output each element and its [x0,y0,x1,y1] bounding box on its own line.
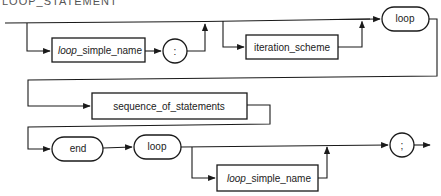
row-3: end loop loop_simple_name ; [52,133,430,191]
loop-statement-diagram: LOOP_STATEMENT loop_simple_name : iterat… [0,0,441,196]
loop-simple-name-label: loop_simple_name [58,45,142,56]
branch-iter-out [338,22,362,48]
branch-endname-out [318,147,327,178]
iteration-scheme-label: iteration_scheme [254,42,331,53]
branch-iter-in [223,21,244,47]
sequence-of-statements-label: sequence_of_statements [113,101,225,112]
end-keyword-text: end [70,143,87,154]
loop-keyword-text: loop [396,13,415,24]
row-2: sequence_of_statements [92,93,247,119]
diagram-title: LOOP_STATEMENT [2,0,118,7]
loop-keyword-text-2: loop [148,141,167,152]
arrow-to-loop [330,19,380,20]
row-1: loop_simple_name : iteration_scheme loop [5,7,429,63]
end-loop-simple-name-label: loop_simple_name [227,173,311,184]
colon-text: : [174,46,177,57]
main-track [5,19,370,23]
semicolon-text: ; [401,140,404,151]
main-track-row3 [181,145,388,147]
branch-label-out [187,24,205,51]
branch-endname-in [192,147,215,178]
branch-label-in [27,23,50,51]
arrow-to-loop-2 [103,147,132,148]
